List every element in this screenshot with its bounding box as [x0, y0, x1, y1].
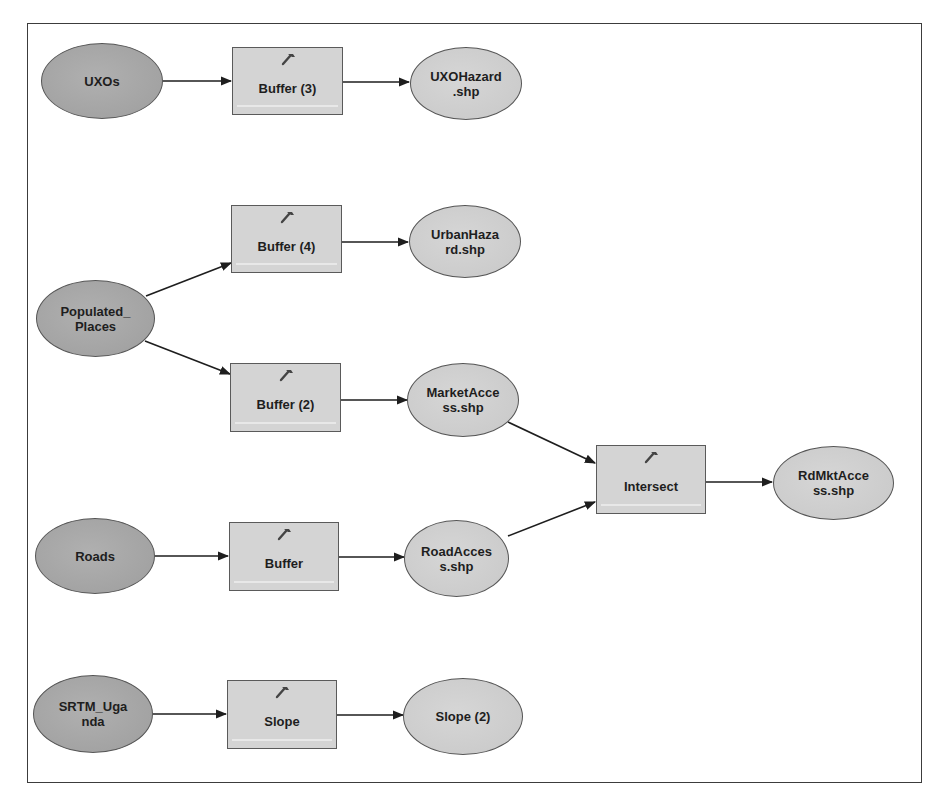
node-label: RdMktAcce ss.shp — [798, 468, 869, 498]
node-label: Intersect — [624, 479, 678, 494]
hammer-icon — [277, 367, 295, 385]
hammer-icon — [279, 51, 297, 69]
node-label: Buffer (4) — [258, 239, 316, 254]
node-label: Buffer (2) — [257, 397, 315, 412]
node-label: SRTM_Uga nda — [59, 699, 128, 729]
output-node-urbanhazard[interactable]: UrbanHaza rd.shp — [409, 205, 521, 278]
node-label: Buffer (3) — [259, 81, 317, 96]
output-node-roadaccess[interactable]: RoadAcces s.shp — [404, 520, 509, 597]
output-node-rdmktaccess[interactable]: RdMktAcce ss.shp — [773, 446, 894, 520]
tool-node-slope[interactable]: Slope — [227, 680, 337, 749]
hammer-icon — [642, 449, 660, 467]
tool-node-buffer2[interactable]: Buffer (2) — [230, 363, 341, 432]
output-node-uxohazard[interactable]: UXOHazard .shp — [410, 47, 522, 120]
input-node-populated-places[interactable]: Populated_ Places — [36, 280, 155, 357]
output-node-marketaccess[interactable]: MarketAcce ss.shp — [407, 363, 519, 437]
input-node-roads[interactable]: Roads — [35, 518, 155, 594]
output-node-slope2[interactable]: Slope (2) — [403, 678, 523, 755]
hammer-icon — [278, 209, 296, 227]
hammer-icon — [275, 526, 293, 544]
input-node-uxos[interactable]: UXOs — [41, 43, 163, 119]
tool-node-intersect[interactable]: Intersect — [596, 445, 706, 514]
hammer-icon — [273, 684, 291, 702]
tool-node-buffer3[interactable]: Buffer (3) — [232, 47, 343, 115]
model-builder-canvas[interactable]: UXOs Buffer (3) UXOHazard .shp Buffer (4… — [0, 0, 945, 798]
node-label: UrbanHaza rd.shp — [431, 227, 499, 257]
node-label: MarketAcce ss.shp — [427, 385, 500, 415]
node-label: UXOs — [84, 74, 119, 89]
node-label: Roads — [75, 549, 115, 564]
node-label: Slope (2) — [436, 709, 491, 724]
tool-node-buffer4[interactable]: Buffer (4) — [231, 205, 342, 273]
node-label: Slope — [264, 714, 299, 729]
node-label: Populated_ Places — [60, 304, 130, 334]
input-node-srtm-uganda[interactable]: SRTM_Uga nda — [33, 675, 153, 753]
node-label: Buffer — [265, 556, 303, 571]
node-label: UXOHazard .shp — [430, 69, 502, 99]
node-label: RoadAcces s.shp — [421, 544, 492, 574]
tool-node-buffer[interactable]: Buffer — [229, 522, 339, 591]
